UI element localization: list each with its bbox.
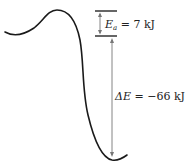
ea-symbol: E bbox=[104, 18, 113, 31]
activation-energy-arrow bbox=[98, 13, 102, 35]
energy-change-label: ΔE = −66 kJ bbox=[114, 90, 185, 103]
activation-energy-label: Ea = 7 kJ bbox=[104, 18, 155, 32]
arrowhead-down-icon bbox=[98, 30, 102, 35]
arrowhead-up-icon bbox=[110, 38, 114, 43]
delta-e-equals: = bbox=[131, 90, 147, 103]
energy-profile-diagram: Ea = 7 kJ ΔE = −66 kJ bbox=[0, 0, 186, 167]
energy-change-arrow bbox=[110, 38, 114, 157]
delta-e-symbol: ΔE bbox=[114, 90, 131, 103]
ea-value: 7 kJ bbox=[133, 18, 155, 31]
ea-equals: = bbox=[117, 18, 133, 31]
delta-e-value: −66 kJ bbox=[147, 90, 185, 103]
arrowhead-down-icon bbox=[110, 152, 114, 157]
reaction-energy-curve bbox=[5, 10, 127, 160]
arrowhead-up-icon bbox=[98, 13, 102, 18]
